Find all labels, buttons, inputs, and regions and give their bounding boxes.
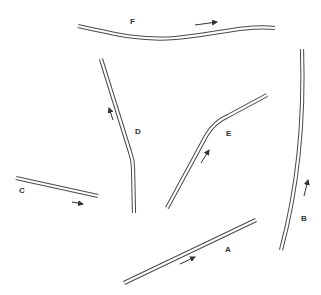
tubes-diagram: F D E C B A bbox=[0, 0, 321, 295]
arrow-e bbox=[201, 150, 209, 163]
tube-a bbox=[124, 220, 256, 283]
label-e: E bbox=[226, 129, 232, 138]
tube-d bbox=[101, 59, 134, 213]
arrow-c bbox=[72, 202, 83, 204]
label-c: C bbox=[19, 186, 25, 195]
tube-e bbox=[167, 95, 267, 208]
label-a: A bbox=[225, 245, 231, 254]
arrow-b bbox=[304, 180, 308, 196]
tube-b bbox=[281, 49, 302, 250]
arrow-d bbox=[109, 108, 113, 120]
arrow-f bbox=[195, 22, 217, 25]
tube-f bbox=[78, 26, 275, 39]
label-f: F bbox=[130, 17, 135, 26]
arrow-a bbox=[180, 257, 195, 264]
tube-c bbox=[16, 178, 98, 196]
label-b: B bbox=[301, 214, 307, 223]
label-d: D bbox=[135, 127, 141, 136]
